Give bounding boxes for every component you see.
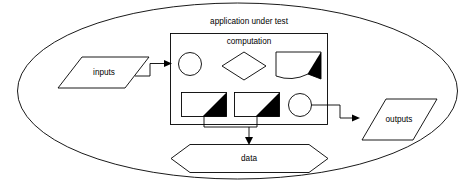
- flow-diagram: application under test computation input…: [0, 0, 471, 192]
- inputs-label: inputs: [93, 68, 115, 77]
- application-under-test-label: application under test: [210, 17, 289, 26]
- data-label: data: [241, 154, 257, 163]
- outputs-label: outputs: [386, 115, 413, 124]
- diagram-canvas: application under test computation input…: [0, 0, 471, 192]
- computation-label: computation: [227, 37, 272, 46]
- entry-circle-node: [179, 53, 202, 76]
- exit-circle-node: [289, 94, 312, 117]
